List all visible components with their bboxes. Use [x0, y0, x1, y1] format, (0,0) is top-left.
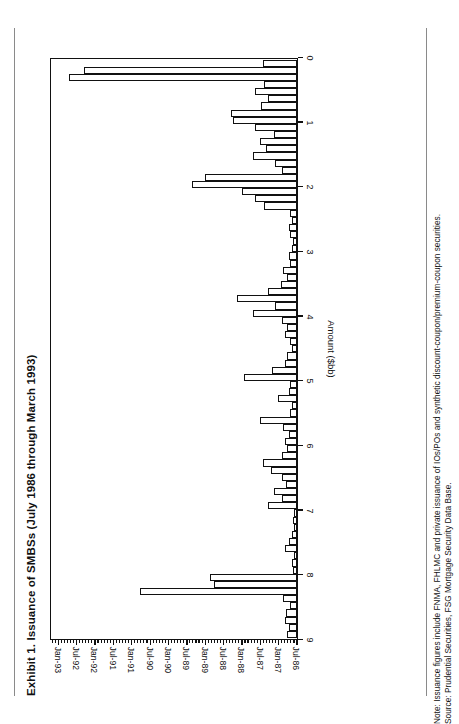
bar: [285, 617, 297, 624]
time-axis-minor-tick: [272, 640, 273, 643]
bar-slot: [51, 531, 297, 538]
bar: [282, 495, 297, 502]
bar: [293, 567, 297, 574]
bar-slot: [51, 509, 297, 516]
bar-slot: [51, 174, 297, 181]
time-axis-minor-tick: [119, 640, 120, 643]
bar-slot: [51, 559, 297, 566]
bar: [278, 395, 297, 402]
time-axis-minor-tick: [226, 640, 227, 643]
bar: [263, 459, 297, 466]
bar: [275, 302, 297, 309]
time-axis-minor-tick: [254, 640, 255, 643]
amount-axis-label: 0: [305, 55, 315, 60]
amount-axis-tick: [298, 509, 303, 510]
time-axis-tick: [113, 640, 114, 645]
time-axis-label: Jan-89: [200, 647, 210, 673]
bar-slot: [51, 117, 297, 124]
bar: [294, 509, 297, 516]
bar: [255, 124, 297, 131]
bar: [282, 474, 297, 481]
bar: [289, 538, 297, 545]
bar-slot: [51, 595, 297, 602]
bar-slot: [51, 624, 297, 631]
bar-slot: [51, 417, 297, 424]
bar-slot: [51, 110, 297, 117]
bar-slot: [51, 381, 297, 388]
bar: [282, 452, 297, 459]
time-axis-minor-tick: [229, 640, 230, 643]
bar-slot: [51, 295, 297, 302]
time-axis-minor-tick: [146, 640, 147, 643]
time-axis-minor-tick: [171, 640, 172, 643]
time-axis-minor-tick: [128, 640, 129, 643]
bar: [287, 324, 297, 331]
time-axis-tick: [76, 640, 77, 645]
time-axis-minor-tick: [217, 640, 218, 643]
bar: [253, 310, 297, 317]
time-axis-minor-tick: [91, 640, 92, 643]
bar-slot: [51, 424, 297, 431]
bar-slot: [51, 95, 297, 102]
time-axis-minor-tick: [116, 640, 117, 643]
bar: [290, 381, 297, 388]
amount-axis-tick: [298, 639, 303, 640]
bar-slot: [51, 338, 297, 345]
time-axis-minor-tick: [208, 640, 209, 643]
bar-slot: [51, 452, 297, 459]
bar-slot: [51, 81, 297, 88]
amount-axis-label: 3: [305, 249, 315, 254]
bar-slot: [51, 331, 297, 338]
bar: [264, 202, 297, 209]
time-axis-label: Jul-92: [71, 647, 81, 670]
amount-axis-title: Amount ($bb): [326, 58, 337, 640]
time-axis-label: Jan-92: [89, 647, 99, 673]
footnote-block: Note: Issuance figures include FNMA, FHL…: [432, 0, 456, 724]
bar-slot: [51, 88, 297, 95]
bar: [283, 595, 297, 602]
bar-slot: [51, 231, 297, 238]
time-axis-minor-tick: [107, 640, 108, 643]
time-axis-minor-tick: [88, 640, 89, 643]
amount-axis-tick: [298, 251, 303, 252]
time-axis-minor-tick: [140, 640, 141, 643]
bar-slot: [51, 131, 297, 138]
bar: [285, 360, 297, 367]
bar-slot: [51, 181, 297, 188]
bar: [287, 274, 297, 281]
bar: [282, 317, 297, 324]
time-axis-tick: [58, 640, 59, 645]
time-axis-minor-tick: [61, 640, 62, 643]
time-axis-label: Jan-93: [53, 647, 63, 673]
footnote-note: Note: Issuance figures include FNMA, FHL…: [432, 0, 443, 724]
bar-slot: [51, 481, 297, 488]
time-axis-minor-tick: [238, 640, 239, 643]
bar-slot: [51, 345, 297, 352]
time-axis-minor-tick: [251, 640, 252, 643]
bar: [210, 574, 297, 581]
bar: [264, 81, 297, 88]
bar: [282, 167, 297, 174]
bar: [244, 374, 297, 381]
bar: [289, 624, 297, 631]
bar: [285, 545, 297, 552]
bar-series: [51, 59, 297, 639]
time-axis-minor-tick: [52, 640, 53, 643]
time-axis-tick: [168, 640, 169, 645]
bar: [242, 188, 297, 195]
time-axis-minor-tick: [220, 640, 221, 643]
bar: [292, 345, 297, 352]
bar: [255, 88, 297, 95]
bar: [290, 231, 297, 238]
bar-slot: [51, 167, 297, 174]
bar-slot: [51, 217, 297, 224]
bar: [293, 517, 297, 524]
bar: [287, 631, 297, 638]
time-axis-minor-tick: [183, 640, 184, 643]
bar-slot: [51, 245, 297, 252]
time-axis-minor-tick: [134, 640, 135, 643]
bar: [260, 138, 297, 145]
bar-slot: [51, 260, 297, 267]
time-axis-minor-tick: [214, 640, 215, 643]
bar-slot: [51, 202, 297, 209]
